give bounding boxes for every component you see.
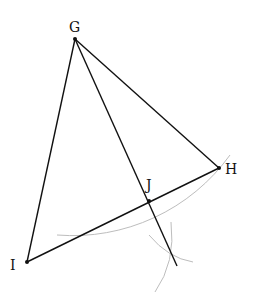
- arc-centered-G: [57, 155, 230, 236]
- arc-small-2: [155, 222, 172, 292]
- geometry-svg: [0, 0, 253, 306]
- diagram-canvas: G H I J: [0, 0, 253, 306]
- point-I: [25, 260, 29, 264]
- point-G: [73, 37, 77, 41]
- label-G: G: [69, 20, 80, 34]
- segment-GI: [27, 39, 75, 262]
- label-H: H: [225, 162, 237, 176]
- point-J: [147, 199, 151, 203]
- label-J: J: [146, 178, 152, 192]
- angle-bisector-G: [75, 39, 177, 266]
- label-I: I: [10, 258, 16, 272]
- segment-IH: [27, 168, 219, 262]
- segment-GH: [75, 39, 219, 168]
- point-H: [217, 166, 221, 170]
